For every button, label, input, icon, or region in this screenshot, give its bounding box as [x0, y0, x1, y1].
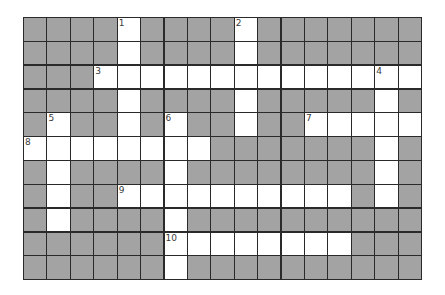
crossword-cell-open[interactable]	[328, 233, 350, 256]
crossword-cell-open[interactable]	[305, 66, 327, 89]
crossword-cell-open[interactable]	[235, 233, 257, 256]
crossword-cell-open[interactable]	[188, 137, 210, 160]
crossword-cell-open[interactable]	[165, 161, 187, 184]
crossword-cell-open[interactable]	[235, 185, 257, 208]
crossword-cell-block	[24, 18, 46, 41]
crossword-cell-block	[235, 137, 257, 160]
crossword-cell-open[interactable]	[375, 161, 397, 184]
crossword-cell-open[interactable]: 9	[118, 185, 140, 208]
crossword-cell-open[interactable]	[188, 233, 210, 256]
crossword-cell-block	[352, 161, 374, 184]
crossword-cell-open[interactable]: 4	[375, 66, 397, 89]
crossword-cell-open[interactable]	[305, 185, 327, 208]
crossword-cell-block	[94, 256, 116, 279]
crossword-cell-open[interactable]	[118, 113, 140, 136]
crossword-cell-open[interactable]	[235, 90, 257, 113]
crossword-cell-block	[305, 90, 327, 113]
crossword-cell-open[interactable]	[328, 185, 350, 208]
crossword-cell-open[interactable]	[282, 185, 304, 208]
crossword-cell-open[interactable]	[47, 137, 69, 160]
crossword-cell-block	[24, 209, 46, 232]
crossword-cell-block	[94, 113, 116, 136]
crossword-cell-block	[24, 256, 46, 279]
crossword-cell-block	[188, 256, 210, 279]
clue-number: 3	[95, 66, 101, 76]
crossword-cell-block	[71, 113, 93, 136]
crossword-cell-open[interactable]	[211, 66, 233, 89]
crossword-cell-block	[328, 137, 350, 160]
clue-number: 4	[376, 66, 382, 76]
crossword-cell-open[interactable]: 1	[118, 18, 140, 41]
crossword-cell-open[interactable]	[165, 66, 187, 89]
crossword-cell-open[interactable]	[165, 185, 187, 208]
crossword-cell-open[interactable]	[352, 66, 374, 89]
crossword-cell-open[interactable]	[258, 185, 280, 208]
crossword-cell-block	[352, 90, 374, 113]
crossword-cell-block	[24, 90, 46, 113]
crossword-cell-block	[352, 42, 374, 65]
crossword-cell-block	[165, 90, 187, 113]
crossword-cell-block	[211, 90, 233, 113]
crossword-cell-open[interactable]	[328, 113, 350, 136]
crossword-cell-open[interactable]: 8	[24, 137, 46, 160]
crossword-cell-block	[47, 233, 69, 256]
crossword-cell-open[interactable]	[258, 66, 280, 89]
crossword-cell-block	[188, 113, 210, 136]
crossword-cell-open[interactable]	[118, 90, 140, 113]
crossword-cell-open[interactable]: 10	[165, 233, 187, 256]
crossword-cell-block	[141, 233, 163, 256]
crossword-cell-block	[352, 18, 374, 41]
crossword-cell-open[interactable]	[94, 137, 116, 160]
crossword-cell-open[interactable]	[305, 233, 327, 256]
crossword-cell-open[interactable]	[375, 113, 397, 136]
crossword-cell-block	[282, 113, 304, 136]
crossword-cell-block	[188, 209, 210, 232]
crossword-cell-block	[71, 18, 93, 41]
crossword-cell-open[interactable]	[282, 66, 304, 89]
crossword-cell-open[interactable]	[235, 113, 257, 136]
crossword-cell-open[interactable]	[399, 66, 421, 89]
crossword-cell-open[interactable]: 2	[235, 18, 257, 41]
crossword-cell-open[interactable]	[165, 137, 187, 160]
crossword-cell-open[interactable]	[258, 233, 280, 256]
crossword-cell-open[interactable]	[188, 185, 210, 208]
crossword-cell-block	[188, 42, 210, 65]
crossword-cell-open[interactable]	[165, 209, 187, 232]
crossword-cell-open[interactable]	[235, 66, 257, 89]
crossword-cell-open[interactable]: 7	[305, 113, 327, 136]
crossword-cell-block	[399, 137, 421, 160]
crossword-cell-open[interactable]	[375, 90, 397, 113]
crossword-cell-open[interactable]: 5	[47, 113, 69, 136]
crossword-cell-open[interactable]	[141, 185, 163, 208]
crossword-cell-open[interactable]	[188, 66, 210, 89]
crossword-cell-open[interactable]	[165, 256, 187, 279]
crossword-cell-open[interactable]	[47, 161, 69, 184]
crossword-cell-open[interactable]	[328, 66, 350, 89]
crossword-cell-block	[71, 233, 93, 256]
crossword-cell-open[interactable]	[211, 185, 233, 208]
crossword-cell-open[interactable]	[47, 209, 69, 232]
crossword-cell-open[interactable]	[118, 66, 140, 89]
crossword-cell-open[interactable]	[118, 137, 140, 160]
crossword-cell-open[interactable]	[375, 137, 397, 160]
crossword-cell-open[interactable]: 6	[165, 113, 187, 136]
crossword-cell-open[interactable]	[141, 66, 163, 89]
crossword-cell-block	[282, 42, 304, 65]
clue-number: 10	[166, 233, 177, 243]
crossword-cell-open[interactable]	[352, 113, 374, 136]
crossword-cell-open[interactable]	[71, 137, 93, 160]
crossword-cell-open[interactable]	[47, 185, 69, 208]
crossword-cell-open[interactable]	[211, 233, 233, 256]
crossword-cell-block	[211, 256, 233, 279]
crossword-cell-open[interactable]	[375, 185, 397, 208]
crossword-cell-open[interactable]	[141, 137, 163, 160]
crossword-cell-block	[352, 185, 374, 208]
crossword-cell-open[interactable]	[235, 42, 257, 65]
crossword-cell-open[interactable]	[399, 113, 421, 136]
crossword-cell-block	[305, 256, 327, 279]
crossword-cell-open[interactable]	[282, 233, 304, 256]
crossword-cell-open[interactable]: 3	[94, 66, 116, 89]
clue-number: 1	[119, 18, 125, 28]
crossword-cell-open[interactable]	[118, 42, 140, 65]
clue-number: 9	[119, 185, 125, 195]
